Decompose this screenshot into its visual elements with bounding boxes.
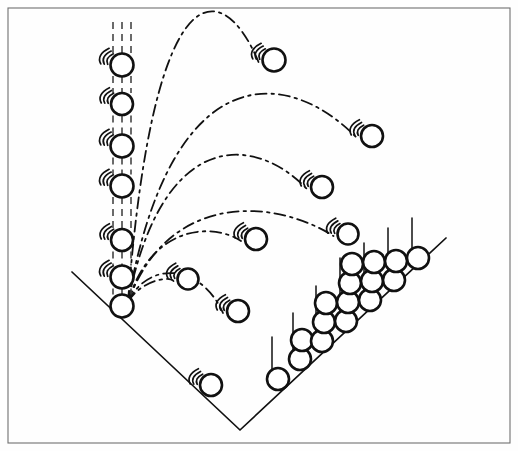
circle-marker xyxy=(111,54,134,77)
trajectory-path xyxy=(128,11,259,302)
circle-marker xyxy=(361,125,383,147)
circle-marker xyxy=(407,247,429,269)
circle-marker xyxy=(227,300,249,322)
trajectory-layer xyxy=(128,11,357,313)
trajectory-path xyxy=(128,155,307,302)
circle-marker xyxy=(245,228,267,250)
circle-marker xyxy=(338,224,359,245)
circle-marker xyxy=(385,250,407,272)
circle-marker xyxy=(311,176,333,198)
trajectory-path xyxy=(128,273,223,313)
circle-marker xyxy=(111,266,134,289)
circle-marker xyxy=(315,292,337,314)
circle-marker xyxy=(267,368,289,390)
circle-marker xyxy=(363,251,385,273)
circle-marker xyxy=(111,295,134,318)
plot-svg xyxy=(0,0,518,451)
circle-marker xyxy=(178,269,199,290)
circle-marker xyxy=(111,229,133,251)
trajectory-path xyxy=(128,211,334,302)
figure-border xyxy=(8,8,510,443)
circle-marker xyxy=(341,253,363,275)
circle-marker xyxy=(200,374,222,396)
figure-canvas xyxy=(0,0,518,451)
circle-marker xyxy=(291,329,313,351)
marker-layer xyxy=(100,43,429,396)
circle-marker xyxy=(111,135,134,158)
circle-marker xyxy=(263,49,286,72)
circle-marker xyxy=(111,175,134,198)
circle-marker xyxy=(111,93,133,115)
trajectory-path xyxy=(128,279,174,302)
